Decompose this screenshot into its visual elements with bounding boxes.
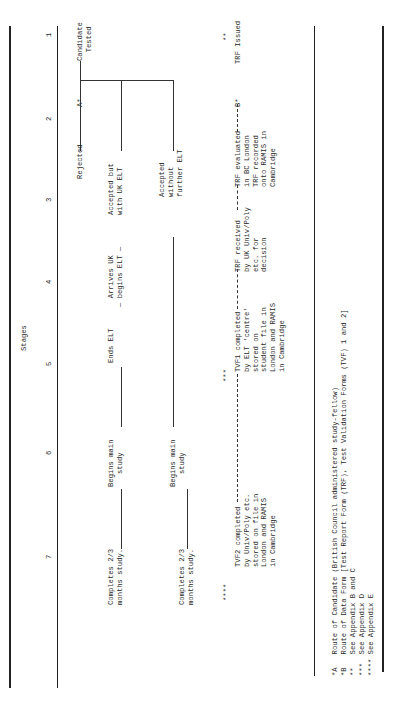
completes-2: Completes 2/3 months study. [178,549,196,605]
stage-6: 6 [45,451,54,455]
accepted-with-elt: Accepted but with UK ELT [107,163,125,215]
branch-line [121,81,122,151]
flow-line [237,104,239,132]
stage-2: 2 [45,117,54,121]
flow-line [121,367,122,427]
tvf2-completed: TVF2 completed by Univ/Poly etc. stored … [234,494,278,567]
stage-7: 7 [45,555,54,559]
bottom-rule [382,26,384,672]
begins-main-study-2: Begins main study [169,440,187,487]
stage-1: 1 [45,33,54,37]
arrives-uk: Arrives UK — begins ELT — [107,247,125,307]
branch-line [173,81,174,151]
branch-line [80,81,81,151]
stage-3: 3 [45,198,54,202]
top-rule [9,26,11,688]
accepted-without-elt: Accepted without further ELT [158,150,184,197]
stages-title: Stages [20,325,29,351]
footnote-e: **** See Appendix E [367,594,376,676]
footnote-a: *A Route of Candidate (British Council a… [331,387,340,676]
connector [80,61,81,81]
flow-line [237,374,239,502]
note-appendix-bc: ** [222,32,231,41]
flow-line [237,269,239,309]
stage-5: 5 [45,362,54,366]
flow-line [237,185,239,210]
stage-4: 4 [45,280,54,284]
footnote-b: *B Route of Data Form [Test Report Form … [340,309,349,676]
completes-1: Completes 2/3 months study. [107,549,125,605]
header-rule [57,26,58,688]
note-appendix-e: **** [222,584,231,601]
trf-received: TRF received by UK Univ/Poly etc. for de… [234,207,269,272]
footnote-bc: ** See Appendix B and C [349,568,358,676]
ends-elt: Ends ELT [107,328,116,363]
flow-line [121,489,122,549]
flow-line [187,489,188,549]
footnote-rule [314,26,315,676]
flow-line [173,237,174,427]
rotated-page: Stages 1 2 3 4 5 6 7 A* Candidate Tested… [0,0,403,727]
candidate-tested: Candidate Tested [76,22,94,61]
trf-evaluated: TRF evaluated in BC London TRF recorded … [234,131,278,187]
trf-issued: TRF Issued [234,21,243,64]
rejected: Rejected [76,144,85,179]
note-appendix-d: *** [222,369,231,382]
tvf1-completed: TVF1 completed by ELT 'centre' stored on… [234,303,287,372]
footnote-d: *** See Appendix D [358,594,367,676]
branch-line [80,80,174,81]
begins-main-study-1: Begins main study [107,440,125,487]
